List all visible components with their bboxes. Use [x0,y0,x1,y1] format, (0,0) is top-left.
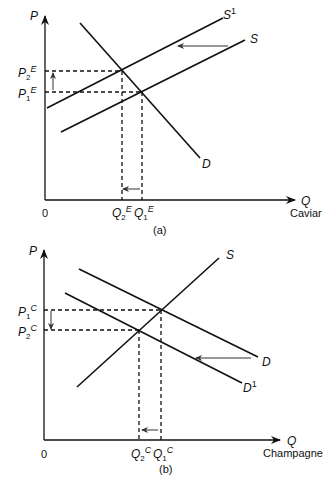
x-axis-label: Q [301,195,310,207]
curve-label-s1: S1 [223,9,236,21]
panel-caption: (b) [159,464,172,475]
quantity-label-q2: Q2C [131,448,151,460]
price-label-p1: P1E [18,88,36,100]
curve-label-d1: D1 [243,382,257,394]
curve-label-d: D [202,158,211,170]
curve-label-s: S [226,249,234,261]
equilibrium-guides [44,310,161,440]
curve-label-d: D [262,356,271,368]
x-axis-good-label: Champagne [263,448,323,459]
quantity-label-q2: Q2E [112,207,132,219]
quantity-label-q1: Q1E [134,207,154,219]
price-label-p2: P2C [18,326,37,338]
equilibrium-guides [45,71,142,200]
price-label-p2: P2E [18,67,36,79]
origin-label: 0 [41,449,47,460]
chart-caviar: P S1 S D P2E P1E 0 Q2E Q1E Q Caviar (a) [0,0,336,240]
y-axis-label: P [30,10,38,22]
curve-label-s: S [250,33,258,45]
price-label-p1: P1C [18,306,37,318]
panel-caption: (a) [153,225,166,236]
demand-curve-d [80,23,200,158]
supply-curve-s [77,258,219,387]
x-axis-good-label: Caviar [290,208,322,219]
chart-caviar-plot [0,0,336,240]
chart-champagne: P S D D1 P1C P2C 0 Q2C Q1C Q Champagne (… [0,240,336,483]
quantity-label-q1: Q1C [153,448,173,460]
x-axis-label: Q [287,435,296,447]
y-axis-label: P [29,245,37,257]
origin-label: 0 [42,208,48,219]
